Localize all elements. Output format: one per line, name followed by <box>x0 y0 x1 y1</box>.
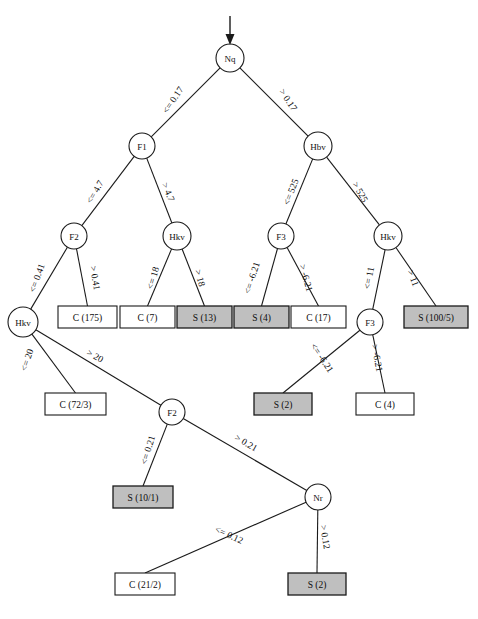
edge-label-edge-nr-left: <= 0.12 <box>213 524 244 546</box>
root-arrow-icon <box>226 16 235 45</box>
tree-svg-canvas: C (175)C (7)S (13)S (4)C (17)S (100/5)C … <box>0 0 478 619</box>
edge-label-edge-f1-right: > 4.7 <box>160 181 177 203</box>
decision-node-hbv: Hbv <box>304 132 332 160</box>
decision-node-root: Nq <box>216 44 244 72</box>
decision-node-f1: F1 <box>129 133 155 159</box>
leaf-label: C (17) <box>306 313 331 324</box>
node-label: Hkv <box>169 232 185 242</box>
leaf-label: S (2) <box>274 400 293 411</box>
node-label: F1 <box>137 142 147 152</box>
edge-label-edge-hbv-right: > 525 <box>350 180 370 204</box>
edge-label-edge-f3low-right: > -6.21 <box>369 344 384 373</box>
node-label: Hkv <box>15 318 31 328</box>
edge-label-edge-root-left: <= 0.17 <box>161 85 186 115</box>
leaves-layer: C (175)C (7)S (13)S (4)C (17)S (100/5)C … <box>45 306 468 595</box>
leaf-node: C (175) <box>58 306 117 328</box>
leaf-node: C (17) <box>291 306 346 328</box>
node-label: F3 <box>365 318 375 328</box>
tree-edge <box>183 419 307 491</box>
edge-label-edge-f2left-left: <= 0.41 <box>27 262 47 294</box>
tree-edge <box>32 334 76 393</box>
leaf-label: S (13) <box>193 313 217 324</box>
leaf-label: C (21/2) <box>129 580 161 591</box>
decision-node-nr: Nr <box>305 484 331 510</box>
leaf-node: S (4) <box>234 306 289 328</box>
edge-label-edge-f3low-left: <= -6.21 <box>309 342 336 375</box>
node-label: F3 <box>276 232 286 242</box>
edge-label-edge-hkvmid-right: > 18 <box>193 268 207 287</box>
decision-node-f3_lower: F3 <box>357 309 383 335</box>
decision-node-f3_upper: F3 <box>268 223 294 249</box>
leaf-node: C (4) <box>356 393 414 415</box>
tree-edge <box>262 249 278 307</box>
edge-label-edge-hkvlow-left: <= 20 <box>19 347 36 372</box>
leaf-label: S (4) <box>252 313 271 324</box>
node-label: F2 <box>167 408 177 418</box>
leaf-label: C (72/3) <box>60 400 92 411</box>
edge-label-edge-root-right: > 0.17 <box>277 87 299 113</box>
leaf-node: C (72/3) <box>45 393 106 415</box>
edge-label-edge-nr-right: > 0.12 <box>318 524 332 550</box>
leaf-node: S (2) <box>254 393 312 415</box>
leaf-label: S (2) <box>308 580 327 591</box>
leaf-label: S (100/5) <box>418 313 454 324</box>
edge-label-edge-hkvmid-left: <= 18 <box>145 265 161 290</box>
leaf-node: C (21/2) <box>115 573 175 595</box>
edge-label-edge-f1-left: <= 4.7 <box>84 178 105 205</box>
leaf-node: S (100/5) <box>404 306 468 328</box>
leaf-node: C (7) <box>120 306 175 328</box>
decision-tree-diagram: C (175)C (7)S (13)S (4)C (17)S (100/5)C … <box>0 0 478 619</box>
node-label: Hkv <box>380 232 396 242</box>
edge-label-edge-f2left-right: > 0.41 <box>88 265 102 291</box>
node-label: Nq <box>225 54 236 64</box>
tree-edge <box>317 510 318 573</box>
node-label: F2 <box>69 232 79 242</box>
leaf-node: S (10/1) <box>113 486 173 508</box>
edge-label-edge-hkvright-right: > 11 <box>405 268 420 288</box>
node-label: Hbv <box>310 142 326 152</box>
tree-edge <box>151 68 220 137</box>
decision-node-f2_left: F2 <box>61 223 87 249</box>
edge-label-edge-f3up-right: > -6.21 <box>297 263 314 292</box>
tree-edge <box>373 250 385 310</box>
edge-label-edge-hkvright-left: <= 11 <box>362 266 376 290</box>
leaf-label: C (175) <box>73 313 102 324</box>
tree-edge <box>327 157 380 225</box>
edge-label-edge-f3up-left: <= -6.21 <box>242 261 262 296</box>
leaf-node: S (13) <box>177 306 232 328</box>
decision-node-hkv_mid: Hkv <box>163 222 191 250</box>
tree-edge <box>77 249 88 306</box>
decision-node-hkv_right: Hkv <box>374 222 402 250</box>
leaf-label: S (10/1) <box>128 493 159 504</box>
leaf-label: C (7) <box>138 313 158 324</box>
leaf-label: C (4) <box>375 400 395 411</box>
decision-node-f2_low: F2 <box>159 399 185 425</box>
edge-label-edge-f2low-left: <= 0.21 <box>139 434 157 466</box>
tree-edge <box>240 68 308 136</box>
decision-node-hkv_left_low: Hkv <box>8 307 38 337</box>
node-label: Nr <box>313 493 323 503</box>
leaf-node: S (2) <box>288 573 346 595</box>
edge-label-edge-hkvlow-right: > 20 <box>85 347 105 364</box>
edge-label-edge-hbv-left: <= 525 <box>281 177 301 206</box>
